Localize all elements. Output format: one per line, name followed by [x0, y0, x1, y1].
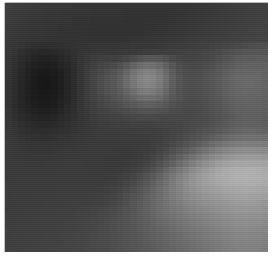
screenshot-stage — [0, 0, 276, 266]
photo-frame — [5, 3, 268, 252]
pixelated-grayscale-image — [5, 3, 268, 252]
